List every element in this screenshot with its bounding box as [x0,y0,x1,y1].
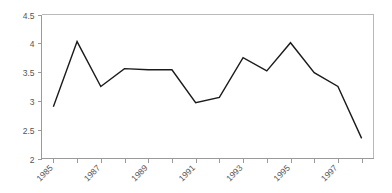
y-tick-label: 2.5 [23,126,35,136]
line-chart: 22.533.544.5 198519871989199119931995199… [0,0,392,193]
x-tick-label: 1991 [177,163,198,184]
x-tick-label: 1993 [224,163,245,184]
data-series-group [53,42,361,139]
x-tick-label: 1985 [34,163,55,184]
y-axis: 22.533.544.5 [23,11,42,165]
y-tick-label: 3 [30,97,35,107]
y-tick-label: 4.5 [23,11,35,21]
y-tick-label: 4 [30,39,35,49]
plot-frame [42,15,374,159]
x-tick-label: 1987 [82,163,103,184]
x-tick-label: 1995 [271,163,292,184]
x-axis: 1985198719891991199319951997 [34,159,362,184]
x-tick-label: 1989 [129,163,150,184]
x-tick-label: 1997 [319,163,340,184]
series-line-series-1 [53,42,361,139]
y-tick-label: 3.5 [23,68,35,78]
chart-canvas: 22.533.544.5 198519871989199119931995199… [0,0,392,193]
y-tick-label: 2 [30,155,35,165]
